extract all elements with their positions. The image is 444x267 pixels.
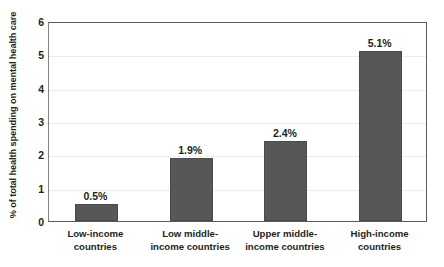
y-tick-label: 4 [30,83,44,95]
y-tick-label: 2 [30,149,44,161]
bar-value-label: 1.9% [178,144,202,156]
x-category-label: Low-income countries [67,228,123,253]
y-tick-label: 5 [30,49,44,61]
x-category-label: High-income countries [351,228,409,253]
y-tick-label: 0 [30,216,44,228]
bar-chart-figure: % of total health spending on mental hea… [0,0,444,267]
y-tick-label: 3 [30,116,44,128]
bar-value-label: 5.1% [368,37,392,49]
y-tick-label: 6 [30,16,44,28]
x-category-label: Upper middle- income countries [245,228,324,253]
bar-value-label: 2.4% [273,127,297,139]
x-category-label: Low middle- income countries [150,228,229,253]
bar-value-label: 0.5% [83,190,107,202]
y-tick-label: 1 [30,183,44,195]
